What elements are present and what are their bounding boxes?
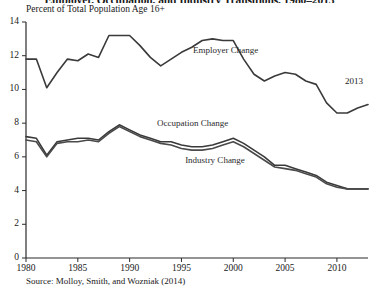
x-axis-tick-label: 1995 <box>161 263 201 273</box>
chart-series-group <box>26 35 368 188</box>
x-axis-tick-label: 2005 <box>265 263 305 273</box>
y-axis-tick-label: 12 <box>0 50 19 60</box>
y-axis-tick-label: 14 <box>0 16 19 26</box>
x-axis-tick-label: 1985 <box>58 263 98 273</box>
chart-source-note: Source: Molloy, Smith, and Wozniak (2014… <box>26 276 185 286</box>
x-axis-tick-label: 2010 <box>317 263 357 273</box>
y-axis-tick-label: 4 <box>0 185 19 195</box>
x-axis-tick-label: 1980 <box>6 263 46 273</box>
chart-figure: Employer, Occupation, and Industry Trans… <box>0 0 379 292</box>
chart-plot-area <box>0 0 379 292</box>
chart-axes <box>26 22 368 258</box>
series-label-employer: Employer Change <box>193 45 253 55</box>
series-label-industry: Industry Change <box>175 155 255 165</box>
y-axis-tick-label: 6 <box>0 151 19 161</box>
y-axis-tick-label: 2 <box>0 218 19 228</box>
x-axis-tick-label: 2000 <box>213 263 253 273</box>
series-label-occupation: Occupation Change <box>157 118 217 128</box>
endpoint-year-annotation: 2013 <box>345 76 363 86</box>
y-axis-tick-label: 10 <box>0 83 19 93</box>
y-axis-tick-label: 8 <box>0 117 19 127</box>
y-axis-tick-label: 0 <box>0 252 19 262</box>
x-axis-tick-label: 1990 <box>110 263 150 273</box>
